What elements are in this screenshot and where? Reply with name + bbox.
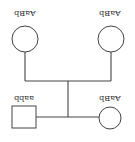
pedigree-lines — [25, 52, 111, 117]
parent-right-genotype: AaBb — [99, 9, 122, 18]
parent-left-symbol — [12, 26, 38, 52]
parent-right-symbol — [98, 26, 124, 52]
pedigree-diagram: AaBb AaBb aabb AaBb — [0, 0, 135, 142]
child-right-genotype: AaBb — [99, 94, 122, 103]
child-right-symbol — [99, 107, 121, 129]
child-left-symbol — [12, 106, 36, 128]
parent-left-genotype: AaBb — [14, 9, 37, 18]
child-left-genotype: aabb — [14, 94, 34, 103]
pedigree-svg: AaBb AaBb aabb AaBb — [0, 0, 135, 142]
